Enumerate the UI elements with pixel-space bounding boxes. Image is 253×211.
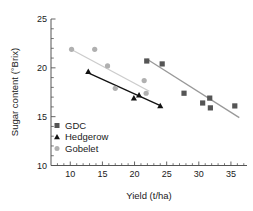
data-point-gobelet	[142, 78, 147, 83]
x-tick-label: 30	[194, 169, 204, 179]
data-point-gobelet	[69, 47, 74, 52]
y-tick-label: 20	[37, 63, 47, 73]
data-point-gdc	[144, 58, 149, 63]
data-point-gdc	[232, 103, 237, 108]
x-tick-label: 15	[97, 169, 107, 179]
y-tick-label: 15	[37, 112, 47, 122]
x-tick-label: 25	[162, 169, 172, 179]
x-tick-label: 10	[65, 169, 75, 179]
data-point-gdc	[160, 61, 165, 66]
data-point-gdc	[207, 96, 212, 101]
legend-label-gdc: GDC	[65, 120, 86, 131]
legend-label-gobelet: Gobelet	[65, 143, 99, 154]
x-axis-title: Yield (t/ha)	[126, 190, 172, 201]
chart-background	[0, 0, 253, 211]
chart-figure: 25201510 101520253035 Sugar content (°Br…	[0, 0, 253, 211]
legend-label-hedgerow: Hedgerow	[65, 131, 108, 142]
x-tick-label: 20	[130, 169, 140, 179]
legend-marker-gobelet	[55, 146, 60, 151]
y-tick-label: 10	[37, 161, 47, 171]
data-point-gobelet	[113, 86, 118, 91]
data-point-gdc	[200, 100, 205, 105]
y-tick-label: 25	[37, 14, 47, 24]
data-point-gobelet	[105, 63, 110, 68]
y-axis-title: Sugar content (°Brix)	[9, 48, 20, 136]
data-point-gdc	[208, 105, 213, 110]
x-tick-label: 35	[226, 169, 236, 179]
data-point-gobelet	[144, 91, 149, 96]
legend-marker-gdc	[55, 123, 60, 128]
data-point-gdc	[181, 91, 186, 96]
scatter-chart: 25201510 101520253035 Sugar content (°Br…	[0, 0, 253, 211]
data-point-gobelet	[92, 47, 97, 52]
